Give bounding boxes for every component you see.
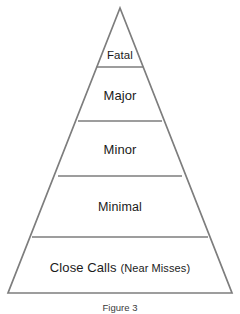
tier-label-fatal: Fatal (0, 50, 240, 62)
figure-caption: Figure 3 (0, 303, 240, 313)
tier-label-close-calls-secondary: (Near Misses) (120, 262, 190, 274)
tier-label-minimal: Minimal (0, 201, 240, 214)
tier-label-minor: Minor (0, 143, 240, 156)
tier-label-close-calls: Close Calls (Near Misses) (0, 261, 240, 274)
safety-pyramid-figure: Fatal Major Minor Minimal Close Calls (N… (0, 0, 240, 314)
tier-label-close-calls-primary: Close Calls (50, 260, 121, 275)
tier-label-major: Major (0, 89, 240, 102)
